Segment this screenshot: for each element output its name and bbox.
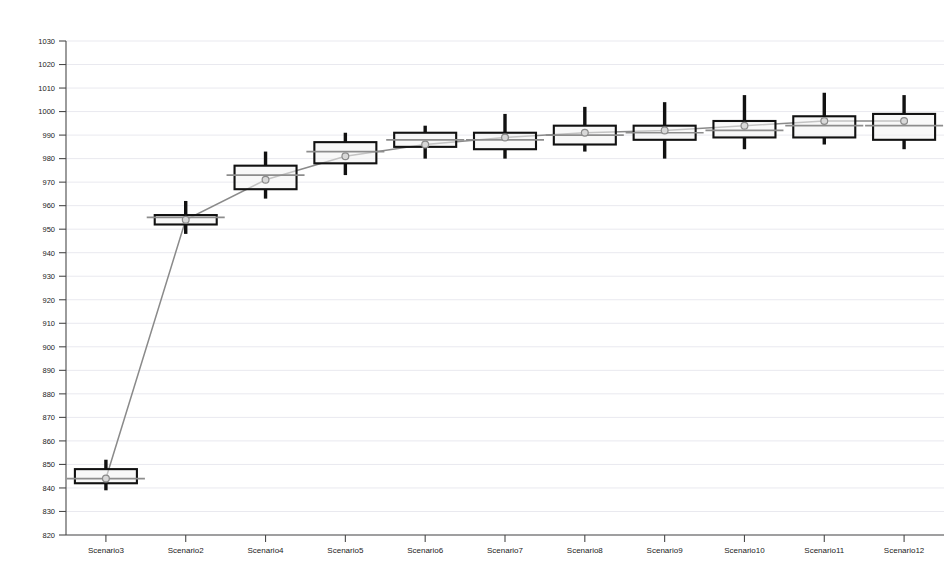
x-tick-label-scenario4: Scenario4	[248, 546, 285, 555]
x-tick-labels: Scenario3Scenario2Scenario4Scenario5Scen…	[88, 546, 925, 555]
y-axis	[59, 41, 66, 535]
x-tick-label-scenario2: Scenario2	[168, 546, 205, 555]
x-axis	[66, 535, 944, 542]
chart-canvas: 8208308408508608708808909009109209309409…	[0, 0, 950, 581]
x-tick-label-scenario6: Scenario6	[407, 546, 444, 555]
box-scenario5	[306, 133, 384, 175]
y-tick-label: 970	[42, 178, 55, 187]
mean-marker	[581, 129, 588, 136]
boxplot-chart: 8208308408508608708808909009109209309409…	[0, 0, 950, 581]
x-tick-label-scenario5: Scenario5	[327, 546, 364, 555]
y-tick-label: 900	[42, 343, 55, 352]
boxplot-series	[67, 93, 943, 491]
mean-marker	[661, 127, 668, 134]
y-tick-label: 930	[42, 272, 55, 281]
mean-marker	[342, 153, 349, 160]
y-tick-labels: 8208308408508608708808909009109209309409…	[38, 37, 55, 540]
mean-marker	[901, 118, 908, 125]
box-scenario8	[546, 107, 624, 152]
y-tick-label: 940	[42, 249, 55, 258]
mean-marker	[741, 122, 748, 129]
x-tick-label-scenario9: Scenario9	[647, 546, 684, 555]
y-tick-label: 950	[42, 225, 55, 234]
x-tick-label-scenario11: Scenario11	[804, 546, 844, 555]
box-scenario11	[785, 93, 863, 145]
y-tick-label: 1020	[38, 60, 55, 69]
y-tick-label: 850	[42, 460, 55, 469]
y-tick-label: 830	[42, 507, 55, 516]
y-tick-label: 860	[42, 437, 55, 446]
box-scenario10	[705, 95, 783, 149]
y-tick-label: 1000	[38, 107, 55, 116]
mean-marker	[182, 216, 189, 223]
box-scenario12	[865, 95, 943, 149]
x-tick-label-scenario12: Scenario12	[884, 546, 925, 555]
y-tick-label: 1010	[38, 84, 55, 93]
x-tick-label-scenario3: Scenario3	[88, 546, 125, 555]
x-tick-label-scenario7: Scenario7	[487, 546, 524, 555]
x-tick-label-scenario8: Scenario8	[567, 546, 604, 555]
box-scenario9	[626, 102, 704, 158]
y-tick-label: 820	[42, 531, 55, 540]
y-tick-label: 880	[42, 390, 55, 399]
y-tick-label: 960	[42, 201, 55, 210]
y-tick-label: 990	[42, 131, 55, 140]
y-tick-label: 890	[42, 366, 55, 375]
box-scenario7	[466, 114, 544, 159]
y-tick-label: 1030	[38, 37, 55, 46]
y-tick-label: 870	[42, 413, 55, 422]
y-tick-label: 920	[42, 296, 55, 305]
y-tick-label: 840	[42, 484, 55, 493]
mean-marker	[502, 134, 509, 141]
mean-marker	[262, 176, 269, 183]
mean-marker	[103, 475, 110, 482]
mean-marker	[422, 141, 429, 148]
y-tick-label: 910	[42, 319, 55, 328]
y-tick-label: 980	[42, 154, 55, 163]
box-scenario6	[386, 126, 464, 159]
mean-marker	[821, 118, 828, 125]
x-tick-label-scenario10: Scenario10	[724, 546, 765, 555]
